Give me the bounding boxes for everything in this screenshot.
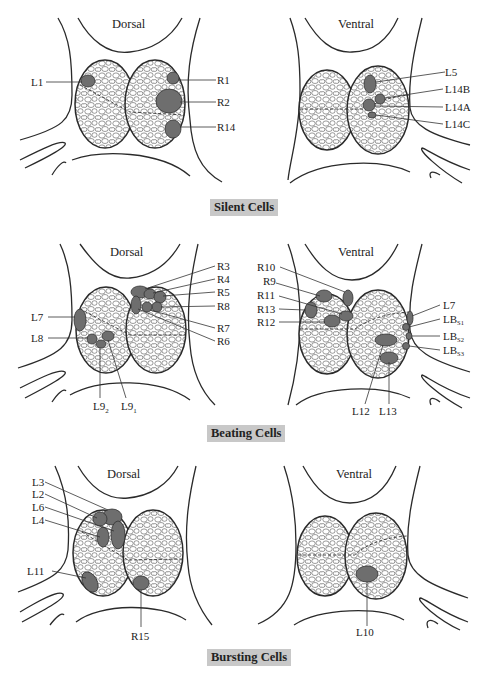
label-R5: R5 <box>217 286 230 298</box>
nerve-outline <box>52 390 66 402</box>
label-LBS3: LBS3 <box>443 344 464 357</box>
connective-outline <box>296 389 410 405</box>
label-L14B: L14B <box>445 83 470 95</box>
label-L9-1: L91 <box>121 400 137 415</box>
label-L12: L12 <box>352 405 370 417</box>
cell-LBS2 <box>406 333 412 340</box>
label-L13: L13 <box>379 405 397 417</box>
label-LBS2: LBS2 <box>443 330 464 343</box>
aplysia-ganglion-diagram: Dorsal L1 R1 R2 R14 Ventral <box>0 0 485 675</box>
cell-R15 <box>133 576 149 590</box>
cell-R9 <box>316 290 332 302</box>
label-R11: R11 <box>257 289 275 301</box>
cell-L7 <box>74 309 86 331</box>
panel-beating-dorsal: Dorsal L7 L8 L92 L91 R3 R4 <box>18 244 230 415</box>
label-R14: R14 <box>217 121 236 133</box>
caption-beating-cells: Beating Cells <box>207 425 285 442</box>
connective-outline <box>20 18 72 140</box>
right-hemiganglion <box>345 513 407 599</box>
cell-L9-1 <box>102 331 114 341</box>
nerve-outline <box>422 375 470 408</box>
nerve-outline <box>427 621 438 628</box>
cell-R8 <box>152 302 162 312</box>
caption-silent-cells: Silent Cells <box>210 199 278 216</box>
panel-bursting-dorsal: Dorsal L3 L2 L6 L4 L11 R15 <box>18 466 212 642</box>
cell-R6 <box>131 296 141 314</box>
label-L1: L1 <box>31 76 43 88</box>
panel-beating-ventral: Ventral R10 R9 R11 R13 R1 <box>257 244 470 417</box>
panel-silent-dorsal: Dorsal L1 R1 R2 R14 <box>20 17 236 182</box>
cell-R10 <box>343 290 353 306</box>
label-L7: L7 <box>31 311 44 323</box>
label-L11: L11 <box>27 565 44 577</box>
label-L5: L5 <box>445 66 458 78</box>
nerve-outline <box>50 614 64 625</box>
nerve-outline <box>430 172 440 178</box>
nerve-outline <box>52 162 66 175</box>
label-L9-2: L92 <box>93 400 109 415</box>
cell-L1 <box>81 75 95 87</box>
connective-outline <box>70 383 190 400</box>
connective-outline <box>290 163 410 183</box>
cell-L14A <box>363 99 375 111</box>
cell-R13 <box>305 302 317 318</box>
label-R1: R1 <box>217 74 230 86</box>
connective-outline <box>288 18 300 180</box>
cell-L14C <box>368 112 376 118</box>
label-R13: R13 <box>257 303 276 315</box>
label-R7: R7 <box>217 322 230 334</box>
connective-outline <box>186 466 212 625</box>
label-L2: L2 <box>32 488 44 500</box>
nerve-outline <box>430 398 440 405</box>
label-R6: R6 <box>217 335 230 347</box>
cell-L14B <box>375 94 385 104</box>
label-L14C: L14C <box>445 118 470 130</box>
cell-LBS3 <box>403 343 410 350</box>
label-LBS1: LBS1 <box>443 313 464 326</box>
label-R10: R10 <box>257 261 276 273</box>
label-L10: L10 <box>356 626 374 638</box>
label-L3: L3 <box>32 476 45 488</box>
right-hemiganglion <box>123 510 183 596</box>
label-R12: R12 <box>257 316 275 328</box>
cell-R5 <box>154 291 166 303</box>
cell-R11 <box>339 311 353 321</box>
view-title-ventral: Ventral <box>336 467 373 481</box>
cell-L10 <box>356 566 378 582</box>
view-title-dorsal: Dorsal <box>107 467 141 481</box>
label-R3: R3 <box>217 260 230 272</box>
cell-R1 <box>167 72 179 84</box>
view-title-ventral: Ventral <box>338 245 375 259</box>
connective-outline <box>72 154 190 176</box>
connective-outline <box>76 607 186 622</box>
connective-outline <box>18 244 72 368</box>
view-title-dorsal: Dorsal <box>112 17 146 31</box>
cell-L9-2 <box>96 340 106 348</box>
view-title-dorsal: Dorsal <box>110 245 144 259</box>
cell-L8 <box>87 334 97 344</box>
label-R4: R4 <box>217 273 230 285</box>
cell-L6 <box>111 521 125 549</box>
cell-L7-ventral <box>407 311 413 325</box>
panel-bursting-ventral: Ventral L10 <box>258 466 468 638</box>
connective-outline <box>258 466 296 624</box>
connective-outline <box>288 244 300 405</box>
label-L8: L8 <box>31 332 44 344</box>
cell-L5 <box>364 75 376 93</box>
label-L7-ventral: L7 <box>443 299 456 311</box>
nerve-outline <box>20 142 65 168</box>
cell-LBS1 <box>403 324 410 331</box>
label-L4: L4 <box>32 514 45 526</box>
cell-R14 <box>165 120 181 138</box>
right-hemiganglion <box>347 290 409 378</box>
panel-silent-ventral: Ventral L5 L14B L14A L14C <box>288 17 471 183</box>
cell-L12 <box>375 334 397 346</box>
view-title-ventral: Ventral <box>338 17 375 31</box>
cell-L2 <box>93 512 107 526</box>
caption-bursting-cells: Bursting Cells <box>207 649 291 666</box>
label-L14A: L14A <box>445 101 471 113</box>
right-hemiganglion <box>347 66 409 154</box>
label-R9: R9 <box>263 275 276 287</box>
label-L6: L6 <box>32 501 45 513</box>
cell-R12 <box>324 315 340 327</box>
